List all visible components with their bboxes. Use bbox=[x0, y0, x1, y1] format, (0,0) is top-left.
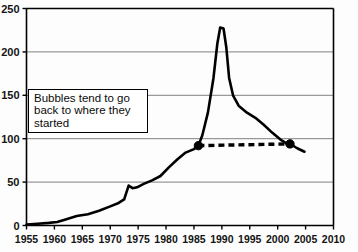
x-tick-label-2010: 2010 bbox=[322, 233, 346, 245]
x-tick-label-1955: 1955 bbox=[15, 233, 39, 245]
annotation-bubbles-note: Bubbles tend to go back to where they st… bbox=[28, 89, 148, 133]
y-tick-label-100: 100 bbox=[1, 133, 19, 145]
y-tick-label-150: 150 bbox=[1, 89, 19, 101]
y-tick-label-250: 250 bbox=[1, 3, 19, 15]
y-tick-label-200: 200 bbox=[1, 46, 19, 58]
y-tick-label-0: 0 bbox=[13, 220, 19, 232]
x-tick-label-2005: 2005 bbox=[294, 233, 318, 245]
x-tick-label-1990: 1990 bbox=[210, 233, 234, 245]
series-line-return-to-start bbox=[198, 144, 290, 146]
data-point-marker-1-0 bbox=[194, 141, 202, 149]
x-tick-label-1960: 1960 bbox=[43, 233, 67, 245]
y-tick-label-50: 50 bbox=[7, 176, 19, 188]
x-tick-label-2000: 2000 bbox=[266, 233, 290, 245]
y-axis-tick-labels: 050100150200250 bbox=[1, 3, 19, 232]
x-tick-label-1975: 1975 bbox=[126, 233, 150, 245]
x-tick-label-1995: 1995 bbox=[238, 233, 262, 245]
data-point-marker-1-1 bbox=[286, 140, 294, 148]
x-tick-label-1970: 1970 bbox=[99, 233, 123, 245]
chart-container: 050100150200250 195519601965197019751980… bbox=[0, 0, 358, 252]
x-axis-tick-labels: 1955196019651970197519801985199019952000… bbox=[15, 233, 346, 245]
x-tick-label-1980: 1980 bbox=[154, 233, 178, 245]
x-tick-label-1985: 1985 bbox=[182, 233, 206, 245]
x-tick-label-1965: 1965 bbox=[71, 233, 95, 245]
